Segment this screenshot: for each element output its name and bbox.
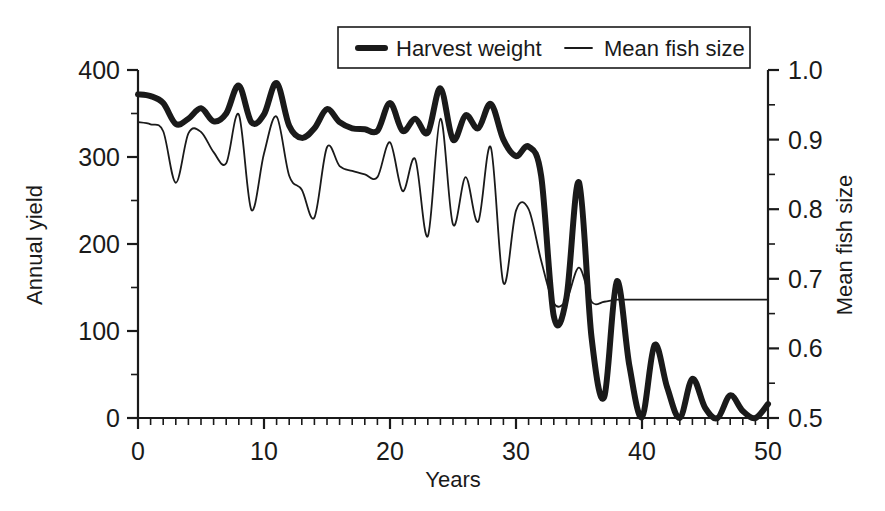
x-tick-label: 0 xyxy=(131,437,145,465)
x-tick-label: 30 xyxy=(502,437,530,465)
y2-tick-label: 1.0 xyxy=(788,56,823,84)
y2-tick-label: 0.5 xyxy=(788,404,823,432)
legend-label-mean-fish-size: Mean fish size xyxy=(604,36,745,61)
y-tick-label: 100 xyxy=(78,317,120,345)
y-tick-label: 300 xyxy=(78,143,120,171)
y2-axis-title: Mean fish size xyxy=(832,175,857,316)
x-tick-label: 20 xyxy=(376,437,404,465)
y-tick-label: 200 xyxy=(78,230,120,258)
y2-tick-label: 0.8 xyxy=(788,195,823,223)
y2-tick-label: 0.7 xyxy=(788,265,823,293)
chart-background xyxy=(0,0,885,511)
x-tick-label: 40 xyxy=(628,437,656,465)
y2-tick-label: 0.9 xyxy=(788,126,823,154)
line-chart-figure: 0100200300400 0.50.60.70.80.91.0 0102030… xyxy=(0,0,885,511)
y2-tick-label: 0.6 xyxy=(788,334,823,362)
y-tick-label: 400 xyxy=(78,56,120,84)
y-tick-label: 0 xyxy=(106,404,120,432)
legend-label-harvest-weight: Harvest weight xyxy=(396,36,542,61)
x-axis-title: Years xyxy=(425,467,480,492)
x-tick-label: 10 xyxy=(250,437,278,465)
x-tick-label: 50 xyxy=(754,437,782,465)
chart-legend: Harvest weight Mean fish size xyxy=(338,27,750,68)
y-axis-title: Annual yield xyxy=(22,185,47,305)
